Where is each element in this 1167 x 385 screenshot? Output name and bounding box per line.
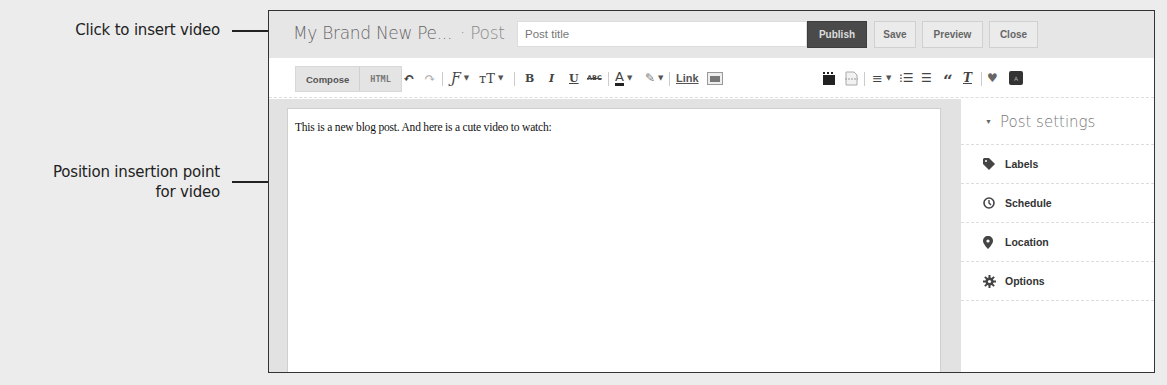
sidebar-item-label: Labels	[1005, 158, 1038, 170]
clock-icon	[983, 197, 1001, 209]
sidebar-item-label: Schedule	[1005, 197, 1052, 209]
text-color-icon: A	[615, 70, 624, 86]
insert-video-icon[interactable]	[822, 69, 836, 87]
underline-icon[interactable]: U	[569, 69, 579, 87]
save-button[interactable]: Save	[874, 21, 916, 48]
compose-mode-button[interactable]: Compose	[296, 67, 359, 91]
redo-icon[interactable]: ↷	[424, 69, 436, 87]
toolbar-divider	[514, 72, 515, 86]
post-title-input[interactable]: Post title	[517, 21, 807, 47]
highlight-icon: ✎	[645, 71, 655, 85]
insert-image-icon[interactable]	[707, 69, 723, 87]
collapse-triangle-icon: ▼	[985, 118, 992, 126]
editor-mode-toggle: Compose HTML	[295, 66, 402, 92]
chevron-down-icon: ▼	[627, 74, 632, 82]
post-settings-header[interactable]: ▼ Post settings	[961, 99, 1154, 145]
highlight-color-dropdown[interactable]: ✎▼	[645, 69, 663, 87]
gear-icon	[983, 275, 1001, 288]
bold-icon[interactable]: B	[525, 69, 534, 87]
blogger-post-editor: My Brand New Pe...· Post Post title Publ…	[268, 10, 1155, 373]
map-pin-icon	[983, 236, 1001, 249]
toolbar-divider	[981, 72, 982, 86]
chevron-down-icon: ▼	[498, 74, 503, 82]
tag-icon	[983, 158, 1001, 170]
callout-insertion-point: Position insertion point for video	[0, 162, 220, 202]
sidebar-item-label: Location	[1005, 236, 1049, 248]
numbered-list-icon[interactable]: ⁝☰	[899, 69, 914, 87]
toolbar-divider	[442, 72, 443, 86]
editor-header: My Brand New Pe...· Post Post title Publ…	[269, 11, 1154, 58]
undo-icon[interactable]: ↶	[403, 69, 415, 87]
font-family-icon: Ƒ	[451, 70, 461, 86]
close-button[interactable]: Close	[989, 21, 1038, 48]
alignment-icon: ≡	[872, 71, 883, 86]
post-body-editor[interactable]: This is a new blog post. And here is a c…	[287, 108, 941, 373]
post-settings-sidebar: ▼ Post settings Labels Schedule Location	[961, 99, 1154, 372]
preview-button[interactable]: Preview	[922, 21, 983, 48]
post-type-label: · Post	[460, 23, 505, 43]
bullet-list-icon[interactable]: ☰	[921, 69, 932, 87]
quote-icon[interactable]: “	[943, 69, 953, 87]
sidebar-item-schedule[interactable]: Schedule	[961, 184, 1154, 223]
input-tools-icon[interactable]: A	[1009, 69, 1023, 87]
formatting-toolbar: Compose HTML ↶ ↷ Ƒ▼ тT▼ B I U ABC A▼ ✎▼ …	[269, 58, 1154, 98]
sidebar-item-labels[interactable]: Labels	[961, 145, 1154, 184]
remove-formatting-icon[interactable]: T	[963, 69, 972, 87]
strikethrough-icon[interactable]: ABC	[587, 69, 602, 87]
chevron-down-icon: ▼	[464, 74, 469, 82]
insert-link-button[interactable]: Link	[676, 69, 699, 87]
sidebar-item-options[interactable]: Options	[961, 262, 1154, 301]
font-family-dropdown[interactable]: Ƒ▼	[451, 69, 469, 87]
callout-insertion-point-line1: Position insertion point	[0, 162, 220, 182]
toolbar-divider	[864, 72, 865, 86]
blog-title-text: My Brand New Pe...	[293, 23, 452, 43]
blog-title: My Brand New Pe...· Post	[293, 23, 505, 43]
toolbar-divider	[669, 72, 670, 86]
text-color-dropdown[interactable]: A▼	[615, 69, 632, 87]
sidebar-item-label: Options	[1005, 275, 1045, 287]
publish-button[interactable]: Publish	[807, 21, 867, 48]
callout-insert-video: Click to insert video	[40, 20, 220, 40]
font-size-icon: тT	[479, 71, 495, 86]
insert-jump-break-icon[interactable]	[845, 69, 858, 87]
callout-insertion-point-line2: for video	[0, 182, 220, 202]
chevron-down-icon: ▼	[886, 74, 891, 82]
toolbar-divider	[608, 72, 609, 86]
alignment-dropdown[interactable]: ≡▼	[872, 69, 891, 87]
editor-area: This is a new blog post. And here is a c…	[269, 99, 961, 372]
post-body-text: This is a new blog post. And here is a c…	[295, 121, 551, 133]
post-settings-title: Post settings	[1000, 113, 1095, 131]
chevron-down-icon: ▼	[658, 74, 663, 82]
font-size-dropdown[interactable]: тT▼	[479, 69, 503, 87]
sidebar-item-location[interactable]: Location	[961, 223, 1154, 262]
italic-icon[interactable]: I	[549, 69, 554, 87]
spellcheck-icon[interactable]: ♥	[987, 69, 998, 87]
html-mode-button[interactable]: HTML	[359, 67, 400, 91]
